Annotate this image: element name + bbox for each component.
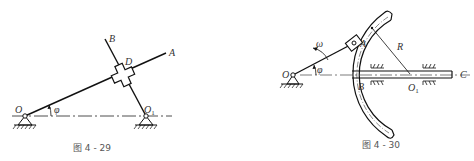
label-c: C [460, 69, 467, 80]
label-o: O [15, 104, 22, 115]
diagram-canvas: O O1 φ B A D 图 4 - 29 [0, 0, 474, 161]
label-o1: O1 [408, 82, 419, 95]
figure-4-30: O ω φ A R B O1 C 图 4 - 30 [280, 11, 470, 150]
label-a: A [359, 38, 367, 49]
label-omega: ω [316, 38, 323, 49]
label-o: O [282, 69, 289, 80]
label-b: B [358, 81, 364, 92]
caption-fig-4-30: 图 4 - 30 [362, 140, 400, 150]
angle-arrow-icon [313, 65, 317, 69]
label-b: B [109, 33, 115, 44]
figure-4-29: O O1 φ B A D 图 4 - 29 [12, 33, 176, 153]
label-a: A [168, 47, 176, 58]
label-phi: φ [317, 64, 323, 75]
radius-endpoint [371, 27, 373, 29]
rod-bc [352, 71, 452, 78]
cross-slider-d [108, 60, 137, 89]
label-phi: φ [54, 104, 60, 115]
label-r: R [396, 41, 403, 52]
guide-right [423, 64, 436, 85]
pin-a [352, 41, 356, 45]
crank-oa [293, 43, 354, 75]
guide-left [371, 64, 384, 85]
label-d: D [124, 56, 133, 67]
caption-fig-4-29: 图 4 - 29 [73, 143, 111, 153]
